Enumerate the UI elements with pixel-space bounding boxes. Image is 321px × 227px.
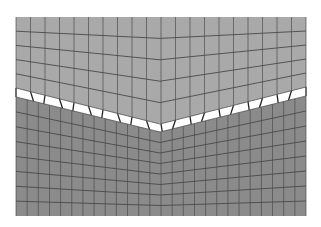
mesh-canvas [0, 0, 321, 227]
mesh-diagram [0, 0, 321, 227]
